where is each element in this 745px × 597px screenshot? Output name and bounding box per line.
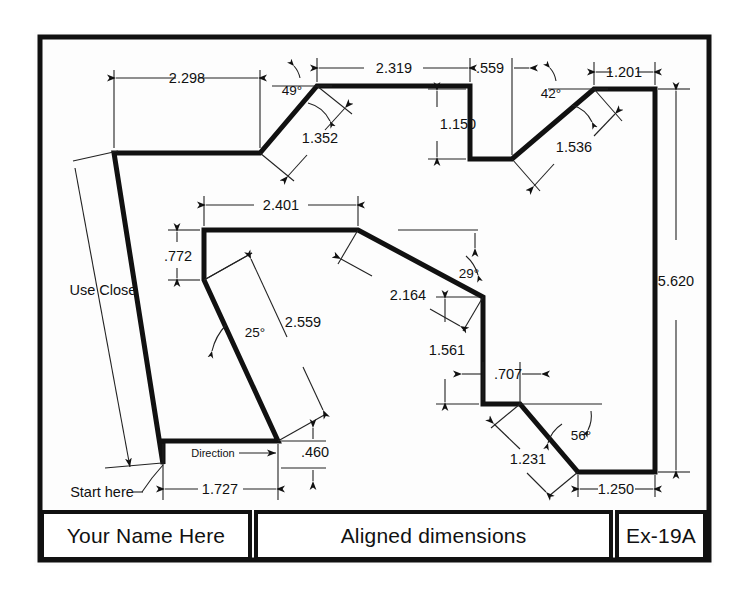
annotation-start-here: Start here <box>70 484 134 500</box>
dimension-label-56-deg: 56° <box>571 428 591 443</box>
dimension-label-1-352: 1.352 <box>302 130 338 146</box>
dimension-label-42-deg: 42° <box>541 86 561 101</box>
technical-drawing-canvas: 2.298 49° 1.352 2.319 .559 1.150 <box>0 0 745 597</box>
dimension-label-0-772: .772 <box>164 248 192 264</box>
dimension-label-2-298: 2.298 <box>169 70 205 86</box>
dimension-label-1-231: 1.231 <box>510 451 546 467</box>
dimension-label-2-401: 2.401 <box>263 197 299 213</box>
dimension-label-1-201: 1.201 <box>606 64 642 80</box>
title-block-title-text: Aligned dimensions <box>256 512 611 559</box>
annotation-direction: Direction <box>191 447 234 459</box>
dimension-label-0-460: .460 <box>301 444 329 460</box>
dimension-label-1-536: 1.536 <box>556 139 592 155</box>
dimension-label-2-319: 2.319 <box>376 60 412 76</box>
title-block-code-text: Ex-19A <box>617 512 705 559</box>
dimension-label-1-561: 1.561 <box>429 342 465 358</box>
title-block-name-text: Your Name Here <box>42 512 250 559</box>
dimension-label-1-150: 1.150 <box>440 116 476 132</box>
annotation-use-close: Use Close <box>70 282 137 298</box>
dimension-label-2-164: 2.164 <box>390 287 426 303</box>
dimension-label-0-707: .707 <box>494 366 522 382</box>
dimension-label-25-deg: 25° <box>245 325 265 340</box>
dimension-label-29-deg: 29° <box>459 266 479 281</box>
dimension-label-2-559: 2.559 <box>285 314 321 330</box>
drawing-sheet: 2.298 49° 1.352 2.319 .559 1.150 <box>0 0 745 597</box>
dimension-label-49-deg: 49° <box>282 83 302 98</box>
dimension-label-0-559: .559 <box>476 60 504 76</box>
dimension-label-1-727: 1.727 <box>202 481 238 497</box>
dimension-label-1-250: 1.250 <box>598 481 634 497</box>
dimension-label-5-620: 5.620 <box>658 273 694 289</box>
